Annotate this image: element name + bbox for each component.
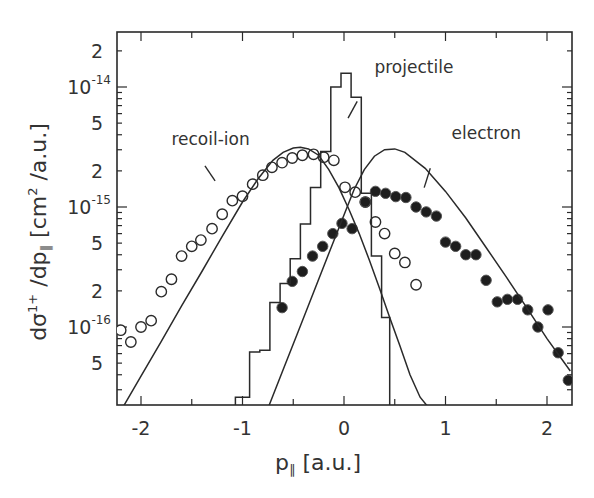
annotation-layer: recoil-ionprojectileelectron (171, 57, 521, 187)
recoil-ion-point (277, 157, 287, 167)
x-axis-title: p∥ [a.u.] (275, 450, 361, 477)
y-minor-label: 5 (91, 352, 103, 374)
x-tick-label: -2 (132, 417, 151, 439)
recoil-ion-point (196, 235, 206, 245)
electron-point (380, 188, 390, 198)
recoil-ion-point (340, 182, 350, 192)
recoil-ion-point (146, 315, 156, 325)
y-minor-label: 2 (91, 160, 103, 182)
recoil-ion-point (258, 170, 268, 180)
recoil-ion-label: recoil-ion (171, 129, 249, 149)
y-tick-label-base: 10 (67, 76, 91, 98)
y-minor-label: 2 (91, 280, 103, 302)
recoil-ion-point (287, 153, 297, 163)
projectile-label: projectile (374, 57, 453, 77)
electron-point (360, 197, 370, 207)
x-axis: -2-1012 (132, 32, 554, 439)
electron-point (440, 237, 450, 247)
cross-section-chart: 10-1610-1510-14525252 -2-1012 recoil-ion… (0, 0, 594, 498)
electron-point (492, 297, 502, 307)
y-tick-label-exp: -15 (91, 193, 111, 207)
electron-point (450, 241, 460, 251)
y-axis-title-main: dσ (26, 313, 51, 341)
electron-point (317, 241, 327, 251)
electron-point (543, 305, 553, 315)
projectile-leader-line (348, 101, 357, 118)
y-minor-label: 5 (91, 232, 103, 254)
electron-point (287, 276, 297, 286)
recoil-ion-point (379, 228, 389, 238)
electron-point (461, 250, 471, 260)
electron-point (471, 250, 481, 260)
recoil-ion-point (297, 150, 307, 160)
electron-point (277, 302, 287, 312)
recoil-ion-point (156, 286, 166, 296)
recoil-ion-point (116, 325, 126, 335)
recoil-ion-point (176, 251, 186, 261)
electron-point (297, 266, 307, 276)
recoil-ion-point (329, 155, 339, 165)
electron-point (421, 207, 431, 217)
recoil-ion-point (411, 280, 421, 290)
recoil-ion-point (136, 322, 146, 332)
recoil-ion-point (217, 209, 227, 219)
y-axis-title-sup: 1+ (25, 294, 40, 313)
electron-point (401, 192, 411, 202)
electron-point (391, 191, 401, 201)
recoil-ion-point (166, 274, 176, 284)
y-tick-label-exp: -14 (91, 73, 111, 87)
y-tick-label: 10-15 (67, 193, 111, 218)
recoil-ion-point (267, 162, 277, 172)
recoil-ion-point (126, 337, 136, 347)
y-tick-label-base: 10 (67, 316, 91, 338)
x-axis-title-main: p (275, 450, 289, 475)
y-axis-title-units-end: /a.u.] (26, 123, 51, 187)
x-tick-label: 1 (439, 417, 451, 439)
y-tick-label-base: 10 (67, 196, 91, 218)
y-axis-title-units: [cm (26, 196, 51, 245)
x-tick-label: 0 (338, 417, 350, 439)
recoil-ion-point (207, 223, 217, 233)
electron-point (307, 251, 317, 261)
recoil-ion-leader-line (205, 166, 215, 181)
electron-point (481, 275, 491, 285)
y-axis: 10-1610-1510-14525252 (67, 40, 572, 390)
y-tick-label: 10-14 (67, 73, 111, 98)
x-axis-title-units: [a.u.] (295, 450, 361, 475)
electron-point (502, 294, 512, 304)
electron-label: electron (452, 123, 521, 143)
electron-point (563, 375, 573, 385)
y-axis-title-mid: /dp (26, 251, 51, 293)
y-tick-label: 10-16 (67, 313, 111, 338)
recoil-ion-point (400, 257, 410, 267)
x-tick-label: -1 (233, 417, 252, 439)
y-axis-title-units-sup: 2 (25, 188, 40, 196)
y-minor-label: 5 (91, 112, 103, 134)
projectile-histogram (235, 73, 389, 407)
y-minor-label: 2 (91, 40, 103, 62)
y-tick-label-exp: -16 (91, 313, 111, 327)
electron-point (411, 202, 421, 212)
recoil-ion-point (390, 248, 400, 258)
recoil-ion-point (187, 241, 197, 251)
x-tick-label: 2 (541, 417, 553, 439)
y-axis-title: dσ1+ /dp∥ [cm2 /a.u.] (25, 123, 53, 341)
recoil-ion-point (227, 195, 237, 205)
electron-point (431, 211, 441, 221)
